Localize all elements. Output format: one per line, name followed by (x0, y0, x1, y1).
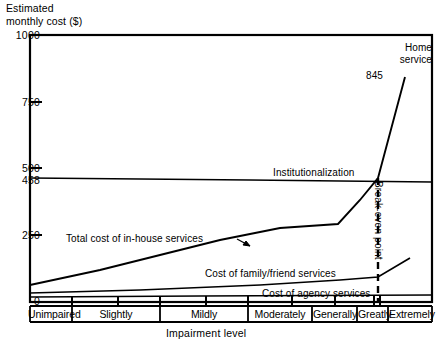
in-house-leader-arrow (237, 239, 250, 246)
x-axis-title: Impairment level (166, 327, 246, 339)
x-category-slightly: Slightly (74, 308, 158, 320)
x-category-unimpaired: Unimpaired (28, 308, 74, 320)
series-line-agency (30, 295, 432, 297)
x-category-mildly: Mildly (162, 308, 246, 320)
x-category-moderately: Moderately (249, 308, 311, 320)
y-axis-ticks (30, 102, 42, 235)
chart-canvas (0, 0, 441, 347)
annotation-institutionalization: Institutionalization (273, 167, 355, 178)
data-label-845: 845 (366, 70, 383, 81)
annotation-break-even-point: Break-even point (373, 181, 384, 260)
annotation-home-service: Home service (388, 42, 432, 66)
x-category-greatly: Greatly (358, 308, 387, 320)
annotation-family-friend: Cost of family/friend services (205, 268, 336, 279)
annotation-total-in-house: Total cost of in-house services (66, 233, 203, 244)
series-line-institutionalization (30, 178, 432, 182)
x-category-generally: Generally (313, 308, 356, 320)
x-category-extremely: Extremely (389, 308, 432, 320)
chart-figure: Estimated monthly cost ($) 1000 750 500 … (0, 0, 441, 347)
annotation-agency: Cost of agency services (262, 288, 370, 299)
